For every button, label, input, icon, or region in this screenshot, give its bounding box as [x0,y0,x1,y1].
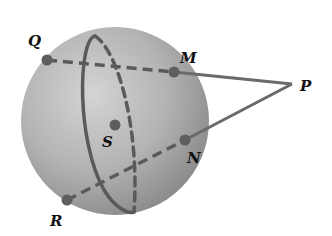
label-R: R [49,212,62,230]
point-R [62,195,73,206]
diagram-canvas: Q M P N R S [0,0,332,236]
point-Q [42,55,53,66]
label-Q: Q [28,32,41,50]
label-S: S [102,133,113,151]
label-P: P [299,77,312,95]
point-N [180,135,191,146]
point-S [110,120,121,131]
sphere-diagram: Q M P N R S [0,0,332,236]
label-M: M [179,49,197,67]
label-N: N [186,149,202,167]
point-M [169,67,180,78]
